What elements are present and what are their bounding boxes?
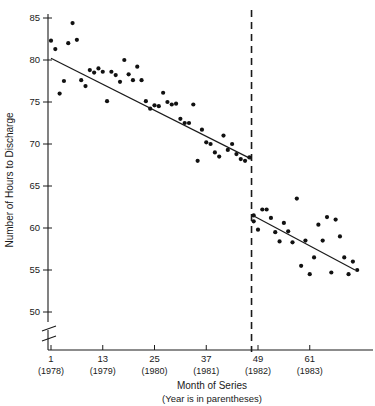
data-point xyxy=(260,207,264,211)
data-point xyxy=(178,117,182,121)
x-tick-label: 61 xyxy=(304,353,315,364)
data-point xyxy=(83,84,87,88)
data-point xyxy=(299,264,303,268)
x-tick-sublabel: (1981) xyxy=(193,366,219,376)
data-point xyxy=(101,70,105,74)
data-point xyxy=(334,218,338,222)
data-point xyxy=(273,230,277,234)
data-point xyxy=(252,219,256,223)
y-tick-label: 50 xyxy=(29,306,40,317)
y-tick-label: 80 xyxy=(29,54,40,65)
data-point xyxy=(239,157,243,161)
data-point xyxy=(53,47,57,51)
data-point xyxy=(109,70,113,74)
data-point xyxy=(79,78,83,82)
data-point xyxy=(204,140,208,144)
data-point xyxy=(295,197,299,201)
x-tick-sublabel: (1979) xyxy=(90,366,116,376)
plot-generated-layer: 50556065707580851(1978)13(1979)25(1980)3… xyxy=(4,10,373,404)
x-tick-sublabel: (1980) xyxy=(141,366,167,376)
x-tick-sublabel: (1983) xyxy=(297,366,323,376)
y-axis-title: Number of Hours to Discharge xyxy=(4,112,15,247)
data-point xyxy=(165,100,169,104)
data-point xyxy=(174,102,178,106)
data-point xyxy=(303,239,307,243)
data-point xyxy=(196,159,200,163)
data-point xyxy=(213,150,217,154)
data-point xyxy=(217,155,221,159)
data-point xyxy=(338,234,342,238)
data-point xyxy=(92,71,96,75)
data-point xyxy=(191,102,195,106)
data-point xyxy=(66,41,70,45)
chart-container: 50556065707580851(1978)13(1979)25(1980)3… xyxy=(0,0,375,406)
data-point xyxy=(122,58,126,62)
data-point xyxy=(114,73,118,77)
x-tick-label: 37 xyxy=(201,353,212,364)
data-point xyxy=(62,79,66,83)
data-point xyxy=(316,223,320,227)
data-point xyxy=(355,268,359,272)
data-point xyxy=(269,216,273,220)
data-point xyxy=(49,39,53,43)
data-point xyxy=(139,78,143,82)
y-tick-label: 60 xyxy=(29,222,40,233)
data-point xyxy=(118,80,122,84)
data-point xyxy=(161,91,165,95)
data-point xyxy=(321,239,325,243)
x-axis-title: Month of Series xyxy=(177,380,247,391)
data-point xyxy=(290,240,294,244)
x-tick-sublabel: (1982) xyxy=(245,366,271,376)
data-point xyxy=(105,99,109,103)
data-point xyxy=(230,142,234,146)
x-tick-sublabel: (1978) xyxy=(38,366,64,376)
x-tick-label: 1 xyxy=(48,353,53,364)
data-point xyxy=(312,255,316,259)
data-point xyxy=(351,260,355,264)
data-point xyxy=(221,134,225,138)
data-point xyxy=(286,229,290,233)
y-tick-label: 85 xyxy=(29,12,40,23)
post-intervention-fit xyxy=(253,215,355,270)
pre-intervention-fit xyxy=(51,58,252,159)
data-point xyxy=(265,207,269,211)
data-point xyxy=(325,215,329,219)
data-point xyxy=(135,65,139,69)
x-axis-subtitle: (Year is in parentheses) xyxy=(162,393,262,404)
data-point xyxy=(329,270,333,274)
data-point xyxy=(170,102,174,106)
data-point xyxy=(346,272,350,276)
y-tick-label: 55 xyxy=(29,264,40,275)
data-point xyxy=(243,159,247,163)
data-point xyxy=(282,221,286,225)
x-tick-label: 49 xyxy=(253,353,264,364)
data-point xyxy=(70,21,74,25)
data-point xyxy=(200,128,204,132)
data-point xyxy=(277,239,281,243)
data-point xyxy=(131,78,135,82)
y-tick-label: 65 xyxy=(29,180,40,191)
x-tick-label: 25 xyxy=(149,353,160,364)
x-tick-label: 13 xyxy=(97,353,108,364)
data-point xyxy=(208,142,212,146)
data-point xyxy=(127,72,131,76)
y-tick-label: 75 xyxy=(29,96,40,107)
y-tick-label: 70 xyxy=(29,138,40,149)
data-point xyxy=(342,255,346,259)
data-point xyxy=(75,38,79,42)
data-point xyxy=(152,103,156,107)
data-point xyxy=(96,66,100,70)
scatter-plot: 50556065707580851(1978)13(1979)25(1980)3… xyxy=(0,0,375,406)
axis-break-marks xyxy=(42,326,56,341)
data-point xyxy=(256,228,260,232)
data-point xyxy=(144,99,148,103)
data-point xyxy=(187,121,191,125)
data-point xyxy=(88,68,92,72)
data-point xyxy=(58,92,62,96)
data-point xyxy=(308,272,312,276)
data-point xyxy=(157,104,161,108)
